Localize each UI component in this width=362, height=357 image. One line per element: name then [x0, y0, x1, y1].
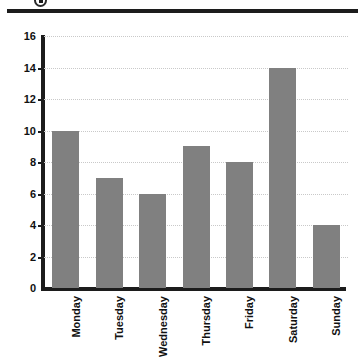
x-axis-tick-label: Monday — [71, 296, 82, 338]
bar[interactable] — [96, 178, 123, 288]
y-axis-tick-label: 10 — [2, 126, 36, 137]
x-axis-tick-label: Tuesday — [114, 296, 125, 340]
plot-area — [44, 36, 348, 288]
y-axis-tick-label: 6 — [2, 189, 36, 200]
y-axis-tick-label: 0 — [2, 283, 36, 294]
x-axis-tick-label: Friday — [244, 296, 255, 329]
y-axis-tick-label: 14 — [2, 63, 36, 74]
bar[interactable] — [313, 225, 340, 288]
bar[interactable] — [52, 131, 79, 289]
y-axis-tick-label: 4 — [2, 220, 36, 231]
bar[interactable] — [226, 162, 253, 288]
bar-chart: 0246810121416 MondayTuesdayWednesdayThur… — [0, 0, 362, 357]
x-axis-tick-label: Saturday — [288, 296, 299, 343]
y-axis-tick-label: 8 — [2, 157, 36, 168]
y-axis-tick-label: 2 — [2, 252, 36, 263]
y-axis-tick-label: 16 — [2, 31, 36, 42]
y-axis-tick-label: 12 — [2, 94, 36, 105]
bar[interactable] — [183, 146, 210, 288]
x-axis-tick-label: Thursday — [201, 296, 212, 346]
bar[interactable] — [269, 68, 296, 289]
bar[interactable] — [139, 194, 166, 289]
x-axis-tick-label: Sunday — [331, 296, 342, 336]
x-axis-tick-label: Wednesday — [158, 296, 169, 357]
